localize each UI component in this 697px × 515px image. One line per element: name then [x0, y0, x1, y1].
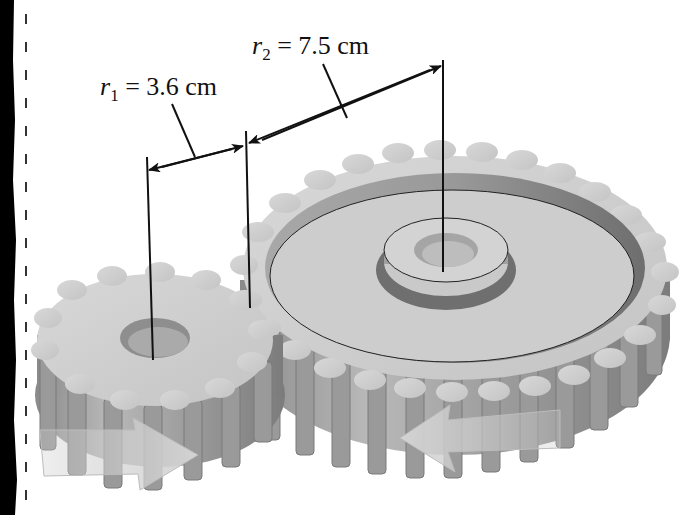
- large-gear: [230, 140, 679, 478]
- r2-equals: =: [277, 31, 292, 60]
- small-gear: [31, 262, 285, 490]
- r1-subscript: 1: [110, 86, 119, 105]
- r2-value: 7.5 cm: [298, 31, 369, 60]
- r1-label: r1 = 3.6 cm: [100, 74, 217, 104]
- r1-symbol: r: [100, 72, 110, 101]
- r1-leader-line: [172, 104, 195, 157]
- r1-value: 3.6 cm: [146, 72, 217, 101]
- r2-subscript: 2: [262, 45, 271, 64]
- r2-label: r2 = 7.5 cm: [252, 33, 369, 63]
- r1-equals: =: [125, 72, 140, 101]
- gear-diagram: r1 = 3.6 cm r2 = 7.5 cm: [0, 0, 697, 515]
- scan-border: [0, 0, 17, 515]
- r2-symbol: r: [252, 31, 262, 60]
